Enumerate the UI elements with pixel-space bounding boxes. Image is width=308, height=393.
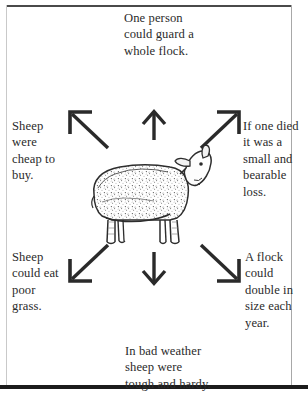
arrow-down-icon — [138, 252, 170, 290]
sheep-illustration — [82, 142, 212, 250]
arrow-up-icon — [138, 104, 170, 140]
callout-text-right-lower: A flock could double in size each year. — [245, 249, 307, 331]
frame-top-border — [6, 5, 292, 7]
diagram-page: One person could guard a whole flock. Sh… — [0, 0, 308, 393]
callout-text-bottom: In bad weather sheep were tough and hard… — [125, 343, 265, 392]
callout-text-right-upper: If one died it was a small and bearable … — [243, 118, 307, 200]
frame-left-border — [6, 5, 7, 386]
callout-text-top: One person could guard a whole flock. — [124, 10, 244, 59]
